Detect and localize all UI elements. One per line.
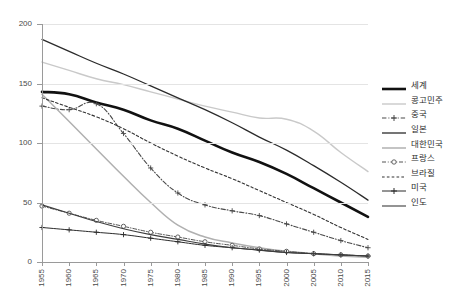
legend-swatch-icon: [382, 153, 406, 163]
legend-swatch-icon: [382, 139, 406, 149]
x-axis-label: 1965: [92, 269, 100, 287]
data-point-marker: [176, 235, 180, 239]
y-axis-label: 0: [2, 258, 32, 266]
legend-item-8[interactable]: 미국: [382, 180, 457, 195]
legend-swatch-icon: [382, 168, 406, 178]
legend-label: 일본: [411, 124, 427, 134]
legend-item-5[interactable]: 대한민국: [382, 136, 457, 151]
data-point-marker: [338, 238, 343, 243]
x-axis-label: 1990: [228, 269, 236, 287]
legend-swatch-icon: [382, 182, 406, 192]
legend-label: 대한민국: [411, 139, 443, 149]
x-axis-label: 1955: [38, 269, 46, 287]
data-point-marker: [67, 227, 72, 232]
series-line: [42, 39, 368, 200]
y-axis-label: 150: [2, 80, 32, 88]
gridline: [42, 84, 368, 85]
legend-swatch-icon: [382, 109, 406, 119]
y-axis-line: [42, 24, 43, 262]
gridline: [42, 143, 368, 144]
x-axis-label: 2005: [310, 269, 318, 287]
data-point-marker: [365, 245, 370, 250]
legend-swatch-icon: [382, 197, 406, 207]
data-point-marker: [94, 230, 99, 235]
gridline: [42, 203, 368, 204]
legend-item-2[interactable]: 콩고민주: [382, 93, 457, 108]
y-axis-label: 100: [2, 139, 32, 147]
series-3: [39, 101, 370, 250]
line-chart: 050100150200 195519601965197019751980198…: [0, 0, 457, 304]
legend-item-7[interactable]: 브라질: [382, 166, 457, 181]
data-point-marker: [257, 213, 262, 218]
legend-label: 콩고민주: [411, 95, 443, 105]
x-axis-label: 1975: [147, 269, 155, 287]
legend-swatch-icon: [382, 80, 406, 90]
legend-label: 브라질: [411, 168, 435, 178]
legend-item-6[interactable]: 프랑스: [382, 151, 457, 166]
series-6: [40, 204, 370, 258]
x-axis-label: 1960: [65, 269, 73, 287]
x-axis-line: [42, 262, 368, 263]
x-axis-label: 2010: [337, 269, 345, 287]
x-axis-tick: [368, 262, 369, 266]
y-axis-label: 50: [2, 199, 32, 207]
legend-label: 미국: [411, 182, 427, 192]
x-axis-label: 1995: [255, 269, 263, 287]
data-point-marker: [284, 221, 289, 226]
y-axis-label: 200: [2, 20, 32, 28]
series-line: [42, 206, 368, 256]
series-2: [42, 62, 368, 171]
legend-swatch-icon: [382, 124, 406, 134]
legend-label: 인도: [411, 197, 427, 207]
legend-label: 중국: [411, 109, 427, 119]
legend-item-9[interactable]: 인도: [382, 195, 457, 210]
series-line: [42, 94, 368, 257]
legend-item-1[interactable]: 세계: [382, 78, 457, 93]
x-axis-label: 1970: [120, 269, 128, 287]
legend-item-3[interactable]: 중국: [382, 107, 457, 122]
x-axis-label: 2000: [283, 269, 291, 287]
data-point-marker: [148, 236, 153, 241]
legend-label: 세계: [411, 80, 427, 90]
data-point-marker: [311, 230, 316, 235]
series-9: [42, 205, 368, 256]
data-point-marker: [121, 232, 126, 237]
legend-label: 프랑스: [411, 153, 435, 163]
data-point-marker: [230, 208, 235, 213]
series-line: [42, 102, 368, 247]
x-axis-label: 1980: [174, 269, 182, 287]
data-point-marker: [149, 230, 153, 234]
series-line: [42, 62, 368, 171]
series-4: [42, 39, 368, 200]
series-5: [42, 94, 368, 257]
legend-item-4[interactable]: 일본: [382, 122, 457, 137]
gridline: [42, 24, 368, 25]
x-axis-label: 2015: [364, 269, 372, 287]
series-1: [42, 92, 368, 217]
series-line: [42, 92, 368, 217]
legend: 세계콩고민주중국일본대한민국프랑스브라질미국인도: [382, 78, 457, 209]
x-axis-label: 1985: [201, 269, 209, 287]
series-line: [42, 205, 368, 256]
legend-swatch-icon: [382, 95, 406, 105]
